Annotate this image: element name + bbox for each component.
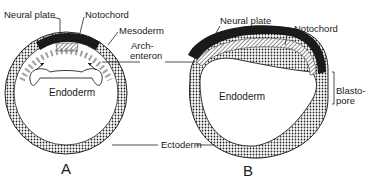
label-endoderm-b: Endoderm	[219, 92, 265, 102]
label-neural-plate-b: Neural plate	[220, 16, 271, 26]
label-notochord-b: Notochord	[294, 24, 338, 34]
label-ectoderm: Ectoderm	[161, 140, 202, 150]
label-mesoderm: Mesoderm	[119, 26, 164, 36]
label-archenteron-2: enteron	[130, 51, 162, 61]
panel-label-b: B	[243, 162, 253, 179]
label-notochord-a: Notochord	[85, 10, 129, 20]
label-blastopore-2: pore	[336, 96, 355, 106]
panel-label-a: A	[61, 160, 71, 177]
label-neural-plate-a: Neural plate	[4, 10, 55, 20]
label-endoderm-a: Endoderm	[49, 88, 95, 98]
